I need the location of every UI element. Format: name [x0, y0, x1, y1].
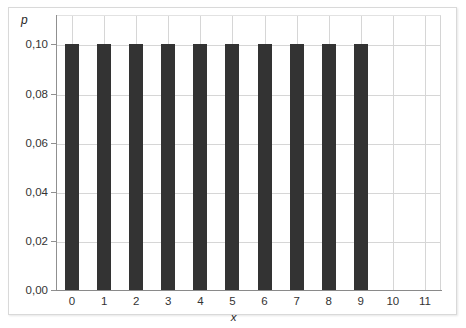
y-axis-tick	[51, 94, 56, 95]
y-axis-tick-label: 0,00	[12, 284, 48, 296]
y-axis-tick-label: 0,08	[12, 88, 48, 100]
y-axis-tick	[51, 143, 56, 144]
bar	[258, 44, 272, 290]
chart-frame: p 0,000,020,040,060,080,10 0123456789101…	[8, 7, 457, 315]
y-axis-tick-label: 0,06	[12, 137, 48, 149]
vertical-gridline	[393, 16, 394, 290]
bar	[65, 44, 79, 290]
bar	[97, 44, 111, 290]
bar	[193, 44, 207, 290]
horizontal-gridline	[56, 193, 440, 194]
x-axis-line	[56, 290, 442, 291]
bar	[161, 44, 175, 290]
x-axis-title: x	[9, 311, 458, 323]
bar	[322, 44, 336, 290]
bar	[290, 44, 304, 290]
bar	[354, 44, 368, 290]
y-axis-tick-label: 0,10	[12, 38, 48, 50]
horizontal-gridline	[56, 45, 440, 46]
y-axis-tick-label: 0,02	[12, 235, 48, 247]
vertical-gridline	[425, 16, 426, 290]
y-axis-tick	[51, 192, 56, 193]
horizontal-gridline	[56, 242, 440, 243]
bar	[225, 44, 239, 290]
x-axis-tick-label: 11	[405, 295, 445, 307]
y-axis-tick-labels: 0,000,020,040,060,080,10	[9, 8, 48, 308]
y-axis-tick	[51, 290, 56, 291]
y-axis-tick-label: 0,04	[12, 186, 48, 198]
horizontal-gridline	[56, 144, 440, 145]
bar	[129, 44, 143, 290]
y-axis-tick	[51, 44, 56, 45]
y-axis-tick	[51, 241, 56, 242]
horizontal-gridline	[56, 95, 440, 96]
y-axis-line	[56, 15, 57, 291]
plot-area	[56, 15, 441, 290]
